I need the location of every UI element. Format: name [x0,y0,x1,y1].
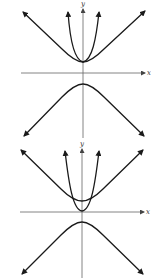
graph-top-svg: x y [0,0,151,140]
x-axis-label: x [146,208,150,216]
parabola-right [82,151,99,211]
x-axis-label: x [147,69,151,77]
hyperbola-lower-branch-right [82,222,143,274]
graph-top: x y [0,0,151,140]
y-axis-label: y [79,140,85,148]
graph-bottom: x y [0,140,151,280]
hyperbola-upper-branch [83,11,145,62]
y-axis-label: y [80,0,86,8]
parabola-left [68,12,83,62]
parabola-left [65,151,82,211]
hyperbola-lower-branch-right [83,84,144,136]
graph-bottom-svg: x y [0,140,151,280]
parabola-right [83,12,99,62]
hyperbola-upper-branch-left [23,12,83,62]
hyperbola-lower-branch-left [22,222,82,274]
hyperbola-lower-branch-left [24,84,83,136]
hyperbola-upper-branch-right [82,150,143,201]
hyperbola-upper-branch-left [21,150,82,201]
